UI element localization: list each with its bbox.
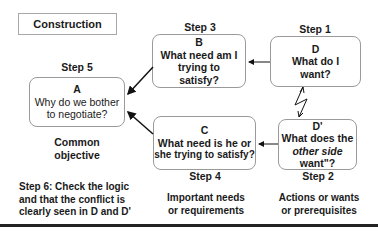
arrow-c-to-a: [128, 112, 153, 134]
arrow-b-to-a: [128, 67, 153, 94]
conflict-lightning-icon: [295, 87, 307, 117]
connector-arrows: [0, 0, 378, 231]
bottom-divider: [0, 224, 378, 227]
